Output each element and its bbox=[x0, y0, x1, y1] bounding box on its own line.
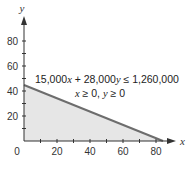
y-axis-arrow-icon bbox=[21, 16, 27, 25]
x-tick-label-40: 40 bbox=[84, 146, 96, 157]
x-tick-label-80: 80 bbox=[150, 146, 162, 157]
y-tick-label-20: 20 bbox=[7, 111, 19, 122]
x-tick-label-20: 20 bbox=[51, 146, 63, 157]
x-axis-arrow-icon bbox=[167, 138, 176, 144]
x-tick-label-60: 60 bbox=[117, 146, 129, 157]
y-tick-label-40: 40 bbox=[7, 86, 19, 97]
y-axis-label: y bbox=[19, 2, 25, 14]
y-tick-label-60: 60 bbox=[7, 61, 19, 72]
constraint-inequality-label: 15,000x + 28,000y ≤ 1,260,000 bbox=[35, 73, 179, 85]
x-axis-label: x bbox=[179, 135, 185, 147]
origin-label: 0 bbox=[14, 146, 20, 157]
nonnegativity-label: x ≥ 0, y ≥ 0 bbox=[74, 87, 125, 99]
y-tick-label-80: 80 bbox=[7, 36, 19, 47]
feasible-region-chart: 20 40 60 80 0 20 40 60 80 y x 15,000x + … bbox=[0, 0, 189, 169]
